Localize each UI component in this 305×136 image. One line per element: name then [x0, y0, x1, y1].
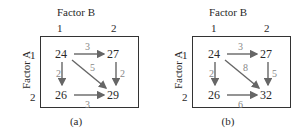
caption: (b): [152, 115, 304, 127]
effect-top: 3: [85, 41, 90, 52]
effect-right: 2: [120, 68, 125, 79]
effect-diagonal: 5: [90, 62, 95, 73]
cell-a1b2: 27: [107, 47, 119, 62]
effect-diagonal: 8: [243, 62, 248, 73]
cell-a2b1: 26: [208, 88, 220, 103]
effect-bottom: 6: [238, 99, 243, 110]
panel-a: Factor B 1 2 Factor A 1 2 24 27 26 29 3 …: [0, 0, 152, 136]
effect-left: 2: [209, 68, 214, 79]
cell-a1b1: 24: [55, 47, 67, 62]
effect-right: 5: [272, 68, 277, 79]
cell-a1b1: 24: [208, 47, 220, 62]
caption: (a): [0, 115, 152, 127]
panel-b: Factor B 1 2 Factor A 1 2 24 27 26 32 3 …: [152, 0, 304, 136]
effect-left: 2: [56, 68, 61, 79]
cell-a1b2: 27: [260, 47, 272, 62]
effect-bottom: 3: [85, 99, 90, 110]
cell-a2b2: 32: [260, 88, 272, 103]
cell-a2b2: 29: [107, 88, 119, 103]
cell-a2b1: 26: [55, 88, 67, 103]
effect-top: 3: [238, 41, 243, 52]
